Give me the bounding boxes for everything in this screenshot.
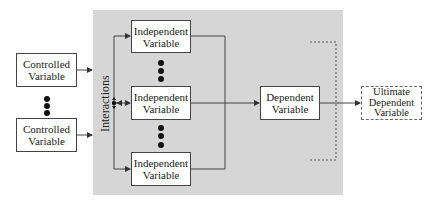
dependent-label: Variable <box>266 103 314 115</box>
ellipsis-dot <box>44 103 50 109</box>
interactions-label: Interactions <box>98 75 113 132</box>
ellipsis-dot <box>158 76 164 82</box>
independent-label: Independent <box>134 91 188 103</box>
ellipsis-dot <box>158 133 164 139</box>
ellipsis-dot <box>44 110 50 116</box>
controlled-label: Controlled <box>23 58 70 70</box>
ellipsis-dot <box>44 96 50 102</box>
controlled-variable-box-2: ControlledVariable <box>16 118 77 152</box>
ellipsis-dot <box>158 142 164 148</box>
independent-label: Independent <box>134 25 188 37</box>
independent-label: Variable <box>134 169 188 181</box>
independent-variable-box-3: IndependentVariable <box>131 152 191 186</box>
independent-label: Variable <box>134 37 188 49</box>
ellipsis-dot <box>158 60 164 66</box>
ellipsis-dot <box>158 125 164 131</box>
independent-variable-box-1: IndependentVariable <box>131 20 191 53</box>
independent-variable-box-2: IndependentVariable <box>131 86 191 120</box>
ultimate-label: Variable <box>369 108 414 119</box>
dependent-label: Dependent <box>266 91 314 103</box>
ellipsis-dot <box>158 68 164 74</box>
controlled-label: Variable <box>23 70 70 82</box>
ultimate-dependent-variable-box: UltimateDependentVariable <box>361 86 422 120</box>
controlled-label: Controlled <box>23 123 70 135</box>
controlled-variable-box-1: ControlledVariable <box>16 53 77 87</box>
controlled-label: Variable <box>23 135 70 147</box>
dependent-variable-box: DependentVariable <box>260 86 320 120</box>
independent-label: Independent <box>134 157 188 169</box>
independent-label: Variable <box>134 103 188 115</box>
